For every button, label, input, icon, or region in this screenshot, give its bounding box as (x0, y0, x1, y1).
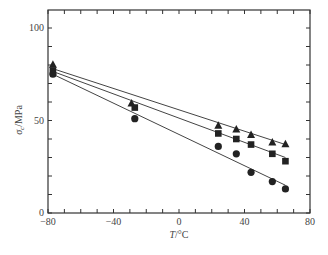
y-axis-title: σc/MPa (13, 105, 26, 135)
triangle-marker (49, 60, 57, 68)
square-marker (248, 141, 255, 148)
circle-marker (247, 169, 254, 176)
circle-marker (215, 143, 222, 150)
y-tick-label: 50 (34, 115, 44, 126)
data-points (49, 60, 290, 192)
triangle-marker (232, 125, 240, 133)
x-axis-title: T/°C (169, 229, 188, 240)
y-tick-label: 0 (39, 207, 44, 218)
square-marker (282, 158, 289, 165)
circle-marker (282, 185, 289, 192)
circle-marker (269, 178, 276, 185)
fit-lines (53, 69, 286, 186)
x-tick-label: 0 (177, 216, 182, 227)
square-marker (215, 130, 222, 137)
triangle-marker (214, 121, 222, 129)
x-tick-label: 80 (305, 216, 315, 227)
square-marker (269, 151, 276, 158)
x-tick-label: −40 (106, 216, 122, 227)
square-marker (131, 104, 138, 111)
fit-line-circle (53, 74, 286, 185)
tick-labels: −80−4004080050100 (29, 22, 315, 227)
circle-marker (233, 150, 240, 157)
circle-marker (49, 71, 56, 78)
chart: −80−4004080050100 T/°C σc/MPa (0, 0, 328, 255)
square-marker (233, 136, 240, 143)
x-tick-label: 40 (240, 216, 250, 227)
y-tick-label: 100 (29, 22, 44, 33)
circle-marker (131, 115, 138, 122)
